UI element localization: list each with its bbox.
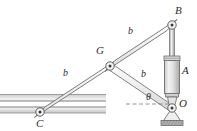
label-dim-lower-left: b: [63, 68, 68, 78]
label-dim-link: b: [141, 69, 146, 79]
label-dim-upper: b: [128, 26, 133, 36]
label-point-b: B: [175, 5, 182, 16]
cylinder-rod: [170, 26, 175, 58]
pin-joint-c: [36, 108, 44, 116]
label-cylinder-a: A: [182, 65, 189, 76]
pin-joint-b: [168, 21, 176, 29]
label-point-c: C: [36, 118, 43, 129]
pin-joint-o: [168, 104, 176, 112]
label-point-o: O: [179, 98, 187, 109]
hydraulic-cylinder-a: [164, 26, 180, 107]
pin-joint-g: [106, 62, 114, 70]
label-point-g: G: [96, 45, 104, 56]
cylinder-end-cap: [166, 94, 179, 98]
mechanism-figure: B G C O A b b b θ: [0, 0, 197, 131]
mechanism-drawing: [0, 0, 197, 131]
label-angle-theta: θ: [146, 92, 151, 102]
